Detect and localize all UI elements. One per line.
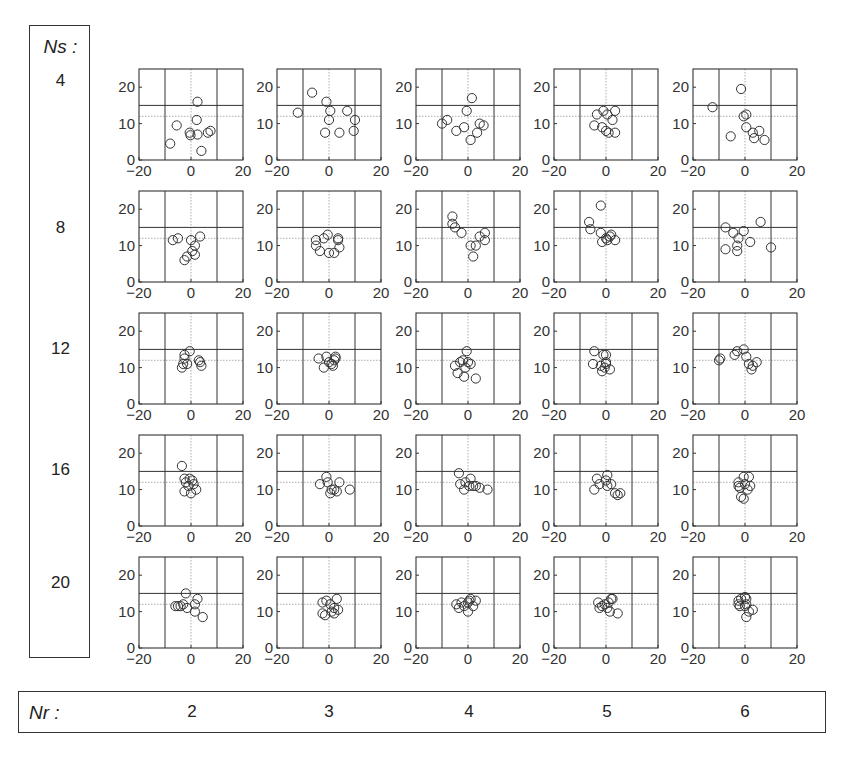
data-point (335, 478, 344, 487)
scatter-panel: 01020−20020 (533, 191, 666, 301)
x-tick-label: 0 (187, 162, 195, 179)
nr-column-label-panel: Nr : 2 3 4 5 6 (18, 691, 826, 733)
data-point (596, 201, 605, 210)
y-tick-label: 20 (672, 322, 689, 339)
data-point (471, 374, 480, 383)
y-tick-label: 10 (672, 237, 689, 254)
data-point (708, 103, 717, 112)
x-tick-label: 20 (650, 528, 667, 545)
x-tick-label: 0 (602, 406, 610, 423)
nr-value-5: 6 (725, 702, 765, 722)
data-point (611, 106, 620, 115)
x-tick-label: 20 (650, 406, 667, 423)
data-point (742, 110, 751, 119)
scatter-panel: 01020−20020 (256, 435, 389, 545)
x-tick-label: 0 (325, 406, 333, 423)
x-tick-label: −20 (126, 406, 151, 423)
scatter-panel: 01020−20020 (118, 557, 251, 667)
x-tick-label: 20 (373, 284, 390, 301)
x-tick-label: 20 (650, 162, 667, 179)
nr-title: Nr : (29, 702, 60, 724)
data-point (742, 612, 751, 621)
x-tick-label: −20 (403, 528, 428, 545)
data-point (192, 115, 201, 124)
x-tick-label: −20 (680, 650, 705, 667)
data-point (177, 461, 186, 470)
y-tick-label: 10 (672, 603, 689, 620)
data-point (330, 609, 339, 618)
scatter-panel: 01020−20020 (256, 69, 389, 179)
data-point (733, 246, 742, 255)
x-tick-label: 20 (789, 162, 806, 179)
data-point (457, 228, 466, 237)
x-tick-label: 20 (235, 162, 252, 179)
y-tick-label: 20 (672, 566, 689, 583)
data-point (590, 485, 599, 494)
x-tick-label: −20 (126, 162, 151, 179)
nr-value-4: 5 (587, 702, 627, 722)
x-tick-label: 20 (235, 650, 252, 667)
y-tick-label: 20 (672, 444, 689, 461)
data-point (460, 123, 469, 132)
y-tick-label: 10 (533, 603, 550, 620)
data-point (739, 494, 748, 503)
x-tick-label: 20 (373, 650, 390, 667)
scatter-panel: 01020−20020 (533, 557, 666, 667)
y-tick-label: 20 (256, 200, 273, 217)
x-tick-label: 20 (650, 284, 667, 301)
x-tick-label: 20 (512, 284, 529, 301)
y-tick-label: 20 (395, 444, 412, 461)
x-tick-label: 0 (464, 162, 472, 179)
y-tick-label: 10 (118, 481, 135, 498)
x-tick-label: −20 (541, 284, 566, 301)
data-point (746, 237, 755, 246)
data-point (332, 487, 341, 496)
x-tick-label: 0 (741, 162, 749, 179)
y-tick-label: 20 (118, 322, 135, 339)
scatter-panel: 01020−20020 (533, 435, 666, 545)
x-tick-label: −20 (680, 406, 705, 423)
nr-value-1: 2 (172, 702, 212, 722)
y-tick-label: 20 (533, 444, 550, 461)
y-tick-label: 20 (256, 566, 273, 583)
x-tick-label: 20 (512, 406, 529, 423)
data-point (193, 594, 202, 603)
y-tick-label: 10 (395, 115, 412, 132)
y-tick-label: 20 (256, 78, 273, 95)
data-point (168, 236, 177, 245)
y-tick-label: 10 (533, 481, 550, 498)
y-tick-label: 10 (256, 359, 273, 376)
data-point (755, 126, 764, 135)
scatter-panel: 01020−20020 (395, 69, 528, 179)
y-tick-label: 20 (395, 322, 412, 339)
scatter-panel: 01020−20020 (118, 191, 251, 301)
data-point (330, 248, 339, 257)
x-tick-label: −20 (541, 162, 566, 179)
x-tick-label: 20 (789, 650, 806, 667)
nr-value-3: 4 (449, 702, 489, 722)
scatter-panel: 01020−20020 (118, 69, 251, 179)
x-tick-label: 20 (512, 650, 529, 667)
x-tick-label: −20 (264, 406, 289, 423)
y-tick-label: 10 (118, 603, 135, 620)
data-point (196, 232, 205, 241)
data-point (756, 217, 765, 226)
y-tick-label: 10 (395, 359, 412, 376)
x-tick-label: 20 (235, 528, 252, 545)
x-tick-label: 20 (373, 162, 390, 179)
data-point (466, 135, 475, 144)
x-tick-label: 0 (325, 162, 333, 179)
y-tick-label: 20 (118, 200, 135, 217)
x-tick-label: 0 (602, 528, 610, 545)
x-tick-label: −20 (126, 528, 151, 545)
x-tick-label: 0 (187, 406, 195, 423)
x-tick-label: 0 (464, 284, 472, 301)
data-point (466, 241, 475, 250)
x-tick-label: 0 (741, 284, 749, 301)
y-tick-label: 10 (395, 237, 412, 254)
data-point (332, 594, 341, 603)
x-tick-label: 20 (373, 406, 390, 423)
x-tick-label: 0 (187, 284, 195, 301)
data-point (462, 106, 471, 115)
data-point (321, 128, 330, 137)
